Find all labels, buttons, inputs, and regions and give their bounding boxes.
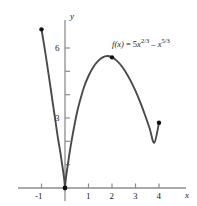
fn-equals: = 5 xyxy=(124,39,137,49)
point-right-endpoint xyxy=(157,120,161,124)
x-axis-label: x xyxy=(185,191,189,200)
x-tick-label--1: -1 xyxy=(35,192,43,201)
y-axis-ticks xyxy=(65,48,70,165)
fn-arg: (x) xyxy=(114,39,123,49)
y-tick-label-6: 6 xyxy=(55,44,60,53)
x-tick-label-4: 4 xyxy=(157,192,162,201)
x-axis-ticks xyxy=(42,184,160,189)
function-equation-label: f(x) = 5x2/3 – x5/3 xyxy=(112,38,170,48)
fn-exp2: 5/3 xyxy=(161,37,169,44)
point-local-maximum xyxy=(110,55,114,59)
graph-canvas xyxy=(0,0,197,206)
x-tick-label-1: 1 xyxy=(86,192,91,201)
function-graph-figure: -1 1 2 3 4 3 6 x y f(x) = 5x2/3 – x5/3 xyxy=(0,0,197,206)
fn-exp1: 2/3 xyxy=(141,37,149,44)
point-left-endpoint xyxy=(39,27,43,31)
x-tick-label-2: 2 xyxy=(110,192,115,201)
curve-right-branch xyxy=(65,56,159,188)
x-tick-label-3: 3 xyxy=(133,192,138,201)
y-axis-label: y xyxy=(70,12,74,21)
curve-left-branch xyxy=(42,29,66,188)
fn-minus: – xyxy=(149,39,158,49)
point-origin-cusp xyxy=(63,186,68,191)
y-tick-label-3: 3 xyxy=(55,114,60,123)
